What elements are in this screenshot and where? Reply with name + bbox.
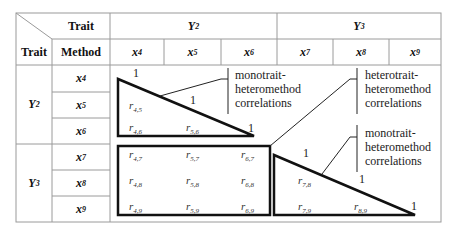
- method-col-x4: x4: [110, 39, 164, 65]
- r-sub: 6,8: [245, 181, 254, 189]
- method-sub: 5: [82, 101, 86, 110]
- diag-one-x6: 1: [248, 121, 254, 136]
- diag-one-x9: 1: [411, 199, 417, 214]
- method-sub: 6: [82, 127, 86, 136]
- r-sub: 8,9: [358, 207, 367, 215]
- annotation-line: monotrait-: [365, 126, 431, 140]
- trait-sub: 3: [361, 22, 365, 31]
- row-method-x7: x7: [52, 144, 110, 170]
- r-sub: 7,9: [302, 207, 311, 215]
- trait-var: Y: [28, 176, 35, 191]
- corr-r46: r4,6: [129, 121, 142, 136]
- r-sub: 6,9: [245, 207, 254, 215]
- method-col-x9: x9: [389, 39, 441, 65]
- trait-sub: 2: [195, 22, 199, 31]
- annotation-heterotrait: heterotrait- heteromethod correlations: [365, 68, 431, 110]
- diag-one-x7: 1: [303, 146, 309, 161]
- trait-sub: 2: [36, 100, 40, 109]
- row-trait-y3: Y3: [16, 144, 52, 222]
- r-sub: 5,9: [190, 207, 199, 215]
- corr-r67: r6,7: [241, 148, 254, 163]
- method-col-x7: x7: [277, 39, 333, 65]
- row-method-x5: x5: [52, 92, 110, 118]
- annotation-line: correlations: [235, 96, 301, 110]
- diag-one-x8: 1: [359, 172, 365, 187]
- corr-r79: r7,9: [298, 200, 311, 215]
- corr-r56: r5,6: [186, 121, 199, 136]
- diag-one-x4: 1: [133, 66, 139, 81]
- method-sub: 7: [306, 48, 310, 57]
- method-sub: 9: [82, 205, 86, 214]
- row-method-x4: x4: [52, 65, 110, 92]
- header-trait-label: Trait: [52, 13, 110, 39]
- method-sub: 8: [82, 179, 86, 188]
- r-sub: 7,8: [302, 181, 311, 189]
- row-method-x8: x8: [52, 170, 110, 196]
- method-col-x5: x5: [164, 39, 221, 65]
- method-sub: 5: [194, 48, 198, 57]
- trait-var: Y: [28, 97, 35, 112]
- annotation-line: correlations: [365, 96, 431, 110]
- r-sub: 5,8: [190, 181, 199, 189]
- corr-r48: r4,8: [129, 174, 142, 189]
- header-method-label: Method: [52, 39, 110, 65]
- r-sub: 4,6: [133, 128, 142, 136]
- corr-r78: r7,8: [298, 174, 311, 189]
- method-col-x8: x8: [333, 39, 389, 65]
- method-sub: 8: [362, 48, 366, 57]
- annotation-line: heteromethod: [365, 140, 431, 154]
- annotation-monotrait-bottom: monotrait- heteromethod correlations: [365, 126, 431, 168]
- corr-r69: r6,9: [241, 200, 254, 215]
- annotation-line: heteromethod: [365, 82, 431, 96]
- corr-r59: r5,9: [186, 200, 199, 215]
- r-sub: 5,6: [190, 128, 199, 136]
- corr-r89: r8,9: [354, 200, 367, 215]
- r-sub: 4,7: [133, 155, 142, 163]
- trait-sub: 3: [36, 179, 40, 188]
- method-sub: 9: [416, 48, 420, 57]
- row-trait-y2: Y2: [16, 65, 52, 144]
- annotation-line: correlations: [365, 154, 431, 168]
- corr-r47: r4,7: [129, 148, 142, 163]
- mtmm-matrix-diagram: Trait Trait Method Y2 Y3 x4 x5 x6 x7 x8 …: [0, 0, 455, 232]
- diag-one-x5: 1: [190, 93, 196, 108]
- header-row-trait-label: Trait: [16, 39, 52, 65]
- row-method-x9: x9: [52, 196, 110, 222]
- corr-r57: r5,7: [186, 148, 199, 163]
- corr-r68: r6,8: [241, 174, 254, 189]
- method-sub: 6: [250, 48, 254, 57]
- r-sub: 6,7: [245, 155, 254, 163]
- annotation-line: monotrait-: [235, 68, 301, 82]
- r-sub: 4,5: [133, 106, 142, 114]
- method-sub: 4: [138, 48, 142, 57]
- method-col-x6: x6: [221, 39, 277, 65]
- r-sub: 4,9: [133, 207, 142, 215]
- corr-r58: r5,8: [186, 174, 199, 189]
- r-sub: 5,7: [190, 155, 199, 163]
- corr-r49: r4,9: [129, 200, 142, 215]
- trait-group-y2: Y2: [110, 13, 277, 39]
- row-method-x6: x6: [52, 118, 110, 144]
- corr-r45: r4,5: [129, 99, 142, 114]
- method-sub: 7: [82, 153, 86, 162]
- method-sub: 4: [82, 74, 86, 83]
- annotation-line: heteromethod: [235, 82, 301, 96]
- r-sub: 4,8: [133, 181, 142, 189]
- trait-var: Y: [353, 19, 360, 34]
- annotation-line: heterotrait-: [365, 68, 431, 82]
- trait-group-y3: Y3: [277, 13, 441, 39]
- annotation-monotrait-top: monotrait- heteromethod correlations: [235, 68, 301, 110]
